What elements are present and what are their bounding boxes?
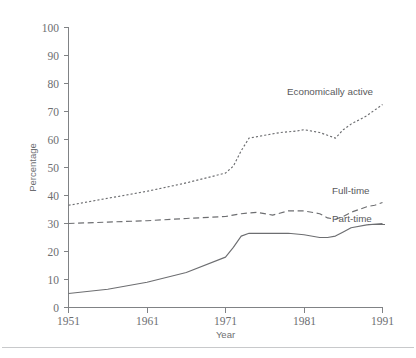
y-tick-label: 70 [48,106,60,118]
y-axis-tick-labels: 100 90 80 70 60 50 40 30 20 10 0 [42,22,60,314]
y-tick-label: 30 [48,218,60,230]
x-tick-label: 1981 [293,315,316,327]
series-line-part-time [69,224,383,294]
y-axis-ticks [64,28,69,308]
x-tick-label: 1961 [136,315,159,327]
y-tick-label: 40 [48,190,60,202]
y-tick-label: 50 [48,162,60,174]
chart-figure: 100 90 80 70 60 50 40 30 20 10 0 1951 19… [0,0,416,358]
y-tick-label: 0 [53,302,59,314]
line-chart-canvas: 100 90 80 70 60 50 40 30 20 10 0 1951 19… [0,0,416,358]
y-tick-label: 60 [48,134,60,146]
series-label-part-time: Part-time [332,213,372,224]
y-axis-title: Percentage [27,143,38,192]
x-axis-tick-labels: 1951 1961 1971 1981 1991 [57,315,394,327]
series-label-full-time: Full-time [332,185,370,196]
y-tick-label: 100 [42,22,60,34]
footer-divider [2,347,414,348]
x-tick-label: 1991 [371,315,394,327]
y-tick-label: 80 [48,78,60,90]
y-tick-label: 10 [48,274,60,286]
x-axis-ticks [69,308,383,313]
x-tick-label: 1971 [214,315,237,327]
y-tick-label: 90 [48,50,60,62]
series-label-economically-active: Economically active [287,86,374,97]
x-tick-label: 1951 [57,315,80,327]
y-tick-label: 20 [48,246,60,258]
x-axis-title: Year [216,329,235,340]
